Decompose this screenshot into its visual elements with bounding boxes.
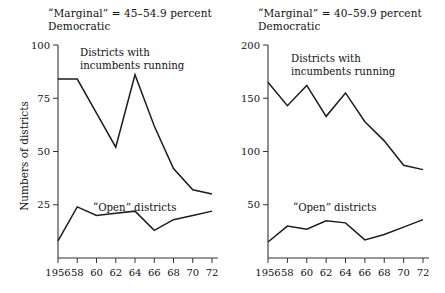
annotation-incumbents: Districts with xyxy=(80,47,150,58)
annotation-open-districts: “Open” districts xyxy=(293,202,376,213)
annotation-incumbents: incumbents running xyxy=(291,66,396,77)
y-tick-label: 50 xyxy=(247,199,260,210)
x-tick-label: 62 xyxy=(109,267,122,278)
x-tick-label: 68 xyxy=(378,267,391,278)
x-tick-label: 72 xyxy=(417,267,430,278)
y-tick-label: 25 xyxy=(37,199,50,210)
x-tick-label: 60 xyxy=(300,267,313,278)
chart-panel-left: “Marginal” = 45–54.9 percent Democratic … xyxy=(0,0,222,293)
plot-area-left: 25507510019565860626466687072Districts w… xyxy=(0,0,222,293)
y-tick-label: 150 xyxy=(241,93,260,104)
x-tick-label: 58 xyxy=(281,267,294,278)
y-tick-label: 100 xyxy=(31,40,50,51)
x-tick-label: 66 xyxy=(359,267,372,278)
x-tick-label: 62 xyxy=(320,267,333,278)
series-line-open xyxy=(268,220,423,242)
figure-two-line-charts: “Marginal” = 45–54.9 percent Democratic … xyxy=(0,0,445,293)
annotation-incumbents: incumbents running xyxy=(80,60,185,71)
annotation-open-districts: “Open” districts xyxy=(93,202,176,213)
x-tick-label: 70 xyxy=(397,267,410,278)
x-tick-label: 72 xyxy=(206,267,219,278)
x-tick-label: 1956 xyxy=(45,267,70,278)
plot-area-right: 5010015020019565860626466687072Districts… xyxy=(223,0,445,293)
x-tick-label: 70 xyxy=(186,267,199,278)
y-tick-label: 50 xyxy=(37,146,50,157)
y-tick-label: 75 xyxy=(37,93,50,104)
x-tick-label: 64 xyxy=(129,267,142,278)
series-line-incumbents xyxy=(58,75,212,194)
x-tick-label: 68 xyxy=(167,267,180,278)
y-tick-label: 100 xyxy=(241,146,260,157)
annotation-incumbents: Districts with xyxy=(291,53,361,64)
x-tick-label: 60 xyxy=(90,267,103,278)
x-tick-label: 64 xyxy=(339,267,352,278)
chart-panel-right: “Marginal” = 40–59.9 percent Democratic … xyxy=(223,0,445,293)
x-tick-label: 66 xyxy=(148,267,161,278)
series-line-incumbents xyxy=(268,82,423,169)
y-tick-label: 200 xyxy=(241,40,260,51)
x-tick-label: 58 xyxy=(71,267,84,278)
x-tick-label: 1956 xyxy=(255,267,280,278)
